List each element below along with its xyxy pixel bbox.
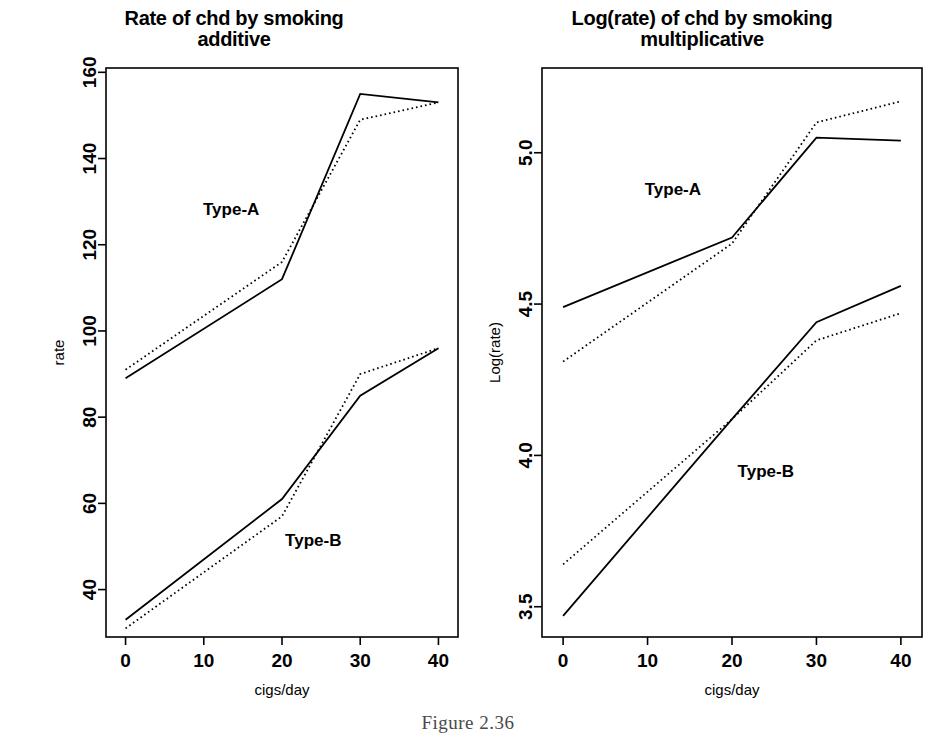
y-tick-label: 40 [80, 579, 101, 600]
x-tick-label: 20 [721, 650, 742, 671]
y-axis-title: rate [50, 340, 67, 366]
y-tick-label: 5.0 [516, 140, 537, 166]
y-tick-label: 60 [80, 493, 101, 514]
y-tick-label: 80 [80, 407, 101, 428]
figure-root: Rate of chd by smoking additive 40608010… [0, 0, 936, 755]
chart-panel-additive: Rate of chd by smoking additive 40608010… [0, 0, 468, 710]
chart-panel-multiplicative: Log(rate) of chd by smoking multiplicati… [468, 0, 936, 710]
y-axis-title: Log(rate) [486, 322, 503, 383]
plot-additive: 406080100120140160010203040cigs/dayrateT… [0, 0, 468, 710]
y-tick-label: 3.5 [516, 593, 537, 620]
x-tick-label: 10 [193, 650, 214, 671]
figure-caption: Figure 2.36 [0, 712, 936, 734]
data-series-line [563, 138, 901, 307]
series-annotation-label: Type-A [203, 200, 259, 219]
y-tick-label: 160 [80, 56, 101, 88]
data-series-line [563, 286, 901, 616]
series-annotation-label: Type-A [645, 180, 701, 199]
x-tick-label: 0 [120, 650, 131, 671]
data-series-line [126, 102, 439, 369]
data-series-line [126, 348, 439, 628]
x-tick-label: 40 [428, 650, 449, 671]
data-series-line [126, 94, 439, 379]
y-tick-label: 120 [80, 229, 101, 261]
x-tick-label: 0 [558, 650, 569, 671]
x-tick-label: 40 [890, 650, 911, 671]
y-tick-label: 100 [80, 315, 101, 347]
x-tick-label: 30 [350, 650, 371, 671]
y-tick-label: 4.0 [516, 442, 537, 468]
data-series-line [563, 313, 901, 564]
y-tick-label: 4.5 [516, 290, 537, 317]
x-axis-title: cigs/day [704, 681, 760, 698]
y-tick-label: 140 [80, 143, 101, 175]
series-annotation-label: Type-B [285, 531, 341, 550]
series-annotation-label: Type-B [738, 462, 794, 481]
data-series-line [563, 101, 901, 361]
plot-multiplicative: 3.54.04.55.0010203040cigs/dayLog(rate)Ty… [468, 0, 936, 710]
x-tick-label: 30 [806, 650, 827, 671]
x-tick-label: 10 [637, 650, 658, 671]
x-tick-label: 20 [271, 650, 292, 671]
data-series-line [126, 348, 439, 620]
x-axis-title: cigs/day [254, 681, 310, 698]
